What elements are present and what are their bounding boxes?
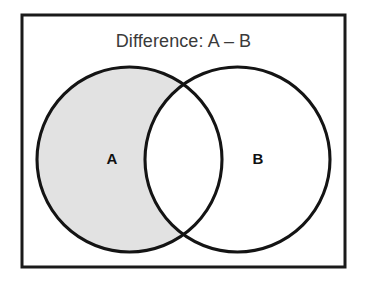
venn-diagram-figure: Difference: A – B A B: [0, 0, 367, 282]
page-title: Difference: A – B: [116, 31, 251, 51]
set-label-b: B: [253, 150, 264, 167]
set-label-a: A: [107, 150, 118, 167]
venn-diagram-svg: Difference: A – B A B: [0, 0, 367, 282]
